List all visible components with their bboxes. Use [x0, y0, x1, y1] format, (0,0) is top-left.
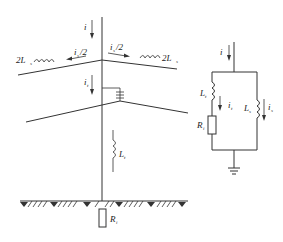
right-branch-inductor-coil-icon	[257, 72, 260, 150]
left-inductance-subscript: s	[30, 61, 32, 66]
grounding-resistor-icon	[99, 209, 106, 227]
left-inductance-label: 2L	[16, 55, 26, 65]
input-current-label: i	[220, 47, 223, 57]
tower-diagram: i 2L s i s /2 i s /2 2L s i t	[16, 17, 188, 227]
left-branch-resistance-subscript: i	[203, 126, 205, 131]
phase-wire-left	[26, 105, 102, 122]
ground-hatch	[20, 201, 188, 207]
right-current-suffix: /2	[115, 42, 124, 52]
right-inductor-coil-icon	[140, 56, 160, 59]
grounding-resistance-subscript: i	[116, 220, 118, 225]
right-branch-current-arrow-icon	[262, 99, 266, 121]
left-branch-resistance-label: R	[196, 120, 203, 130]
grounding-resistance-label: R	[109, 214, 116, 224]
input-current-arrow-icon	[227, 45, 231, 61]
circuit-figure: i 2L s i s /2 i s /2 2L s i t	[0, 0, 283, 242]
left-current-suffix: /2	[79, 47, 88, 57]
ground-symbol-icon	[228, 168, 240, 174]
phase-wire-right	[120, 101, 188, 113]
left-branch-inductance-subscript: t	[205, 94, 207, 99]
left-branch-current-subscript: t	[231, 106, 233, 111]
stroke-current-label: i	[84, 22, 87, 32]
stroke-current-arrow-icon	[90, 20, 94, 39]
right-current-arrow-icon	[108, 53, 130, 58]
tower-inductance-subscript: t	[124, 155, 126, 160]
left-current-subscript: s	[77, 53, 79, 58]
equivalent-circuit: i L t i t R i L s i s	[196, 42, 273, 174]
tower-current-subscript: t	[87, 83, 89, 88]
left-branch-resistor-icon	[208, 116, 216, 134]
right-inductance-subscript: s	[176, 59, 178, 64]
left-inductor-coil-icon	[34, 60, 54, 63]
right-current-subscript: s	[113, 48, 115, 53]
insulator-string-icon	[102, 88, 124, 101]
right-branch-inductance-subscript: s	[249, 109, 251, 114]
phase-wire-mid	[102, 101, 120, 105]
tower-current-arrow-icon	[90, 75, 94, 95]
right-inductance-label: 2L	[162, 53, 172, 63]
left-branch-current-arrow-icon	[218, 96, 222, 111]
left-branch-inductor-coil-icon	[212, 72, 215, 116]
tower-inductor-coil-icon	[113, 130, 116, 172]
right-branch-current-subscript: s	[271, 108, 273, 113]
